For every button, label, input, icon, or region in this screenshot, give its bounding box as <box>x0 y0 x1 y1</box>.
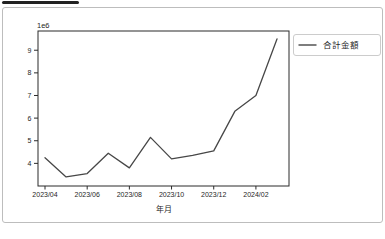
x-axis-ticks: 2023/042023/062023/082023/102023/122024/… <box>32 186 268 198</box>
legend-label: 合計金額 <box>323 40 359 50</box>
line-chart: 1e6 456789 2023/042023/062023/082023/102… <box>0 0 385 239</box>
y-tick-label: 6 <box>28 115 32 122</box>
series-line <box>45 39 277 177</box>
y-axis-offset-label: 1e6 <box>37 21 50 30</box>
x-tick-label: 2023/08 <box>117 191 142 198</box>
x-tick-label: 2023/10 <box>159 191 184 198</box>
y-tick-label: 9 <box>28 47 32 54</box>
y-tick-label: 7 <box>28 92 32 99</box>
legend: 合計金額 <box>294 35 381 56</box>
y-tick-label: 8 <box>28 69 32 76</box>
x-tick-label: 2023/04 <box>32 191 57 198</box>
x-axis-label: 年月 <box>156 204 172 214</box>
y-tick-label: 5 <box>28 137 32 144</box>
plot-area <box>38 31 289 186</box>
x-tick-label: 2024/02 <box>243 191 268 198</box>
y-axis-ticks: 456789 <box>28 47 38 167</box>
x-tick-label: 2023/12 <box>201 191 226 198</box>
y-tick-label: 4 <box>28 160 32 167</box>
x-tick-label: 2023/06 <box>75 191 100 198</box>
screen: 1e6 456789 2023/042023/062023/082023/102… <box>0 0 385 239</box>
